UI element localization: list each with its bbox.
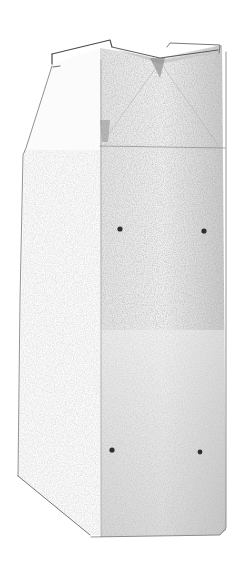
carton-sketch [0,0,236,588]
dot-upper-left [117,226,122,231]
left-face [18,48,101,535]
front-face [100,45,226,537]
dot-lower-left [109,447,114,452]
dot-lower-right [198,450,203,455]
dot-upper-right [201,228,206,233]
